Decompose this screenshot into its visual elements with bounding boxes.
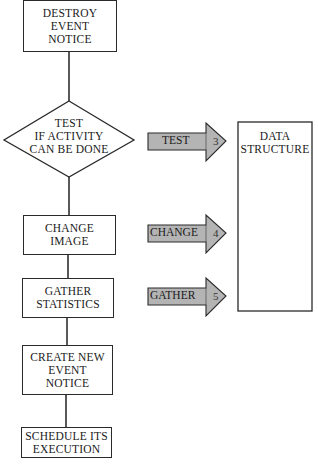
step-text: EVENT: [51, 20, 90, 33]
step-schedule-its-execution: SCHEDULE ITS EXECUTION: [21, 427, 112, 458]
arrow-gather-label: GATHER: [150, 289, 195, 301]
step-change-image: CHANGE IMAGE: [23, 215, 116, 255]
decision-text: IF ACTIVITY: [4, 130, 134, 143]
step-text: CREATE NEW: [30, 351, 105, 364]
step-create-new-event-notice: CREATE NEW EVENT NOTICE: [22, 345, 113, 395]
step-text: NOTICE: [48, 33, 91, 46]
step-text: EXECUTION: [33, 443, 101, 456]
data-structure-text: STRUCTURE: [238, 143, 312, 156]
decision-test-activity-text: TEST IF ACTIVITY CAN BE DONE: [4, 117, 134, 156]
step-text: IMAGE: [50, 235, 89, 248]
step-text: GATHER: [45, 285, 92, 298]
step-text: STATISTICS: [36, 298, 100, 311]
step-text: EVENT: [48, 364, 87, 377]
arrow-change-number: 4: [213, 227, 219, 239]
data-structure-title: DATA STRUCTURE: [238, 130, 312, 156]
decision-text: CAN BE DONE: [4, 143, 134, 156]
arrow-test-label: TEST: [162, 134, 189, 146]
step-destroy-event-notice: DESTROY EVENT NOTICE: [23, 0, 117, 52]
step-text: DESTROY: [43, 7, 97, 20]
arrow-test-number: 3: [213, 135, 219, 147]
step-text: CHANGE: [45, 222, 94, 235]
step-text: NOTICE: [46, 377, 89, 390]
data-structure-text: DATA: [238, 130, 312, 143]
step-gather-statistics: GATHER STATISTICS: [22, 278, 114, 318]
decision-text: TEST: [4, 117, 134, 130]
arrow-change-label: CHANGE: [150, 226, 198, 238]
arrow-gather-number: 5: [213, 290, 219, 302]
step-text: SCHEDULE ITS: [25, 430, 108, 443]
